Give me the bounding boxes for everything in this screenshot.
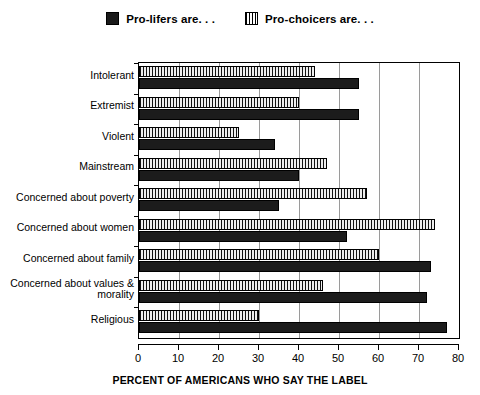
y-axis-tick	[134, 185, 139, 186]
bar-pro-choicers	[139, 97, 299, 108]
x-axis-title: PERCENT OF AMERICANS WHO SAY THE LABEL	[0, 374, 480, 386]
x-axis-tick-label: 70	[412, 352, 424, 364]
x-axis-tick	[458, 344, 459, 350]
chart-row	[139, 155, 459, 186]
legend-swatch-dark-solid-icon	[106, 12, 119, 25]
bar-pro-lifers	[139, 261, 431, 272]
bar-pro-choicers	[139, 219, 435, 230]
y-axis-tick	[134, 94, 139, 95]
x-axis-tick-label: 20	[212, 352, 224, 364]
chart-row	[139, 63, 459, 94]
y-axis-tick	[134, 216, 139, 217]
y-axis-label: Concerned about values & morality	[0, 278, 134, 301]
x-axis-tick	[338, 344, 339, 350]
y-axis-label: Concerned about women	[0, 222, 134, 234]
legend-entry-pro-choicers: Pro-choicers are. . .	[245, 12, 374, 25]
bar-pro-choicers	[139, 66, 315, 77]
bar-pro-lifers	[139, 139, 275, 150]
bar-pro-choicers	[139, 310, 259, 321]
y-axis-tick	[134, 124, 139, 125]
legend-swatch-vertical-hatch-icon	[245, 12, 258, 25]
y-axis-label: Concerned about family	[0, 253, 134, 265]
chart-row	[139, 94, 459, 125]
bar-pro-lifers	[139, 170, 299, 181]
bar-pro-choicers	[139, 188, 367, 199]
y-axis-label: Mainstream	[0, 161, 134, 173]
x-axis-tick-label: 50	[332, 352, 344, 364]
chart-row	[139, 216, 459, 247]
x-axis-tick	[418, 344, 419, 350]
x-axis-tick	[298, 344, 299, 350]
x-axis-tick	[138, 344, 139, 350]
x-axis-tick-label: 0	[135, 352, 141, 364]
bar-pro-lifers	[139, 322, 447, 333]
y-axis-tick	[134, 63, 139, 64]
bar-pro-choicers	[139, 158, 327, 169]
bar-pro-lifers	[139, 200, 279, 211]
chart-row	[139, 124, 459, 155]
bar-pro-lifers	[139, 292, 427, 303]
legend-label-pro-choicers: Pro-choicers are. . .	[265, 13, 374, 25]
x-axis-tick	[258, 344, 259, 350]
chart-plot-area	[138, 62, 460, 339]
bar-pro-lifers	[139, 78, 359, 89]
x-axis-tick	[178, 344, 179, 350]
y-axis-label: Extremist	[0, 100, 134, 112]
y-axis-tick	[134, 155, 139, 156]
bar-pro-choicers	[139, 249, 379, 260]
y-axis-tick	[134, 246, 139, 247]
chart-row	[139, 246, 459, 277]
x-axis-tick-label: 30	[252, 352, 264, 364]
bar-pro-choicers	[139, 127, 239, 138]
chart-row	[139, 185, 459, 216]
x-axis-tick	[218, 344, 219, 350]
legend-entry-pro-lifers: Pro-lifers are. . .	[106, 12, 215, 25]
y-axis-tick	[134, 307, 139, 308]
bar-pro-lifers	[139, 109, 359, 120]
bar-pro-lifers	[139, 231, 347, 242]
y-axis-tick	[134, 277, 139, 278]
x-axis-tick-label: 80	[452, 352, 464, 364]
chart-legend: Pro-lifers are. . . Pro-choicers are. . …	[0, 12, 480, 25]
x-axis-tick-label: 10	[172, 352, 184, 364]
chart-row	[139, 307, 459, 338]
y-axis-label: Violent	[0, 131, 134, 143]
bar-pro-choicers	[139, 280, 323, 291]
y-axis-label: Religious	[0, 314, 134, 326]
chart-row	[139, 277, 459, 308]
legend-label-pro-lifers: Pro-lifers are. . .	[126, 13, 215, 25]
x-axis-tick	[378, 344, 379, 350]
x-axis-tick-label: 40	[292, 352, 304, 364]
y-axis-label: Concerned about poverty	[0, 192, 134, 204]
x-axis-tick-label: 60	[372, 352, 384, 364]
y-axis-label: Intolerant	[0, 70, 134, 82]
